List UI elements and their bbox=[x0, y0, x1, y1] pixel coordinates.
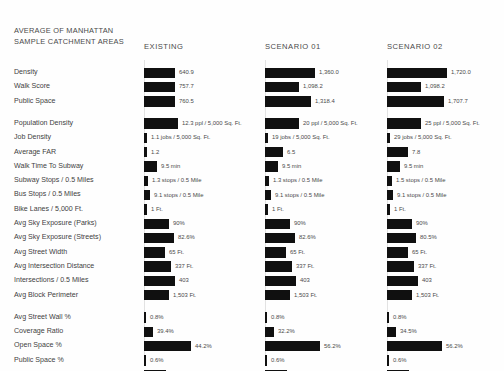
value-label: 403 bbox=[179, 277, 189, 284]
metric-label: Public Space bbox=[14, 97, 55, 106]
value-bar bbox=[265, 161, 278, 171]
metric-label: Walk Time To Subway bbox=[14, 162, 83, 171]
value-label: 0.6% bbox=[393, 357, 406, 364]
column-header-existing: EXISTING bbox=[144, 42, 183, 51]
page-title-line-1: AVERAGE OF MANHATTAN bbox=[14, 26, 144, 37]
metric-label: Walk Score bbox=[14, 82, 50, 91]
value-label: 90% bbox=[416, 220, 428, 227]
value-bar bbox=[144, 96, 175, 106]
value-label: 1 Ft. bbox=[394, 206, 406, 213]
value-bar bbox=[265, 290, 290, 300]
value-bar bbox=[387, 147, 408, 157]
value-bar bbox=[265, 219, 290, 229]
metric-row: Population Density12.3 ppl / 5,000 Sq. F… bbox=[0, 117, 504, 131]
value-bar bbox=[265, 190, 271, 200]
metric-row: Avg Street Width65 Ft.65 Ft.65 Ft. bbox=[0, 246, 504, 260]
value-label: 9.5 min bbox=[404, 163, 423, 170]
value-label: 82.6% bbox=[178, 234, 195, 241]
value-label: 0.6% bbox=[150, 357, 163, 364]
metric-row: Density640.91,360.01,720.0 bbox=[0, 66, 504, 80]
value-bar bbox=[144, 219, 169, 229]
value-label: 25 ppl / 5,000 Sq. Ft. bbox=[425, 120, 480, 127]
value-bar bbox=[387, 261, 414, 271]
metric-label: Avg Sky Exposure (Parks) bbox=[14, 219, 97, 228]
value-bar bbox=[144, 147, 147, 157]
value-label: 9.1 stops / 0.5 Mile bbox=[275, 192, 324, 199]
value-bar bbox=[387, 219, 412, 229]
value-label: 1,503 Ft. bbox=[173, 292, 196, 299]
value-bar bbox=[387, 68, 447, 78]
value-bar bbox=[387, 341, 442, 351]
page-title: AVERAGE OF MANHATTAN SAMPLE CATCHMENT AR… bbox=[14, 26, 144, 47]
value-label: 19 jobs / 5,000 Sq. Ft. bbox=[272, 134, 330, 141]
value-label: 65 Ft. bbox=[412, 249, 427, 256]
value-bar bbox=[387, 312, 389, 322]
value-bar bbox=[144, 161, 157, 171]
value-label: 80.5% bbox=[420, 234, 437, 241]
value-label: 1.5 stops / 0.5 Mile bbox=[396, 177, 445, 184]
value-bar bbox=[144, 312, 146, 322]
value-label: 337 Ft. bbox=[418, 263, 436, 270]
metric-label: Avg Street Width bbox=[14, 248, 67, 257]
value-bar bbox=[265, 204, 268, 214]
value-label: 12.3 ppl / 5,000 Sq. Ft. bbox=[182, 120, 242, 127]
value-label: 9.1 stops / 0.5 Mile bbox=[154, 192, 203, 199]
infographic-sheet: AVERAGE OF MANHATTAN SAMPLE CATCHMENT AR… bbox=[0, 0, 504, 371]
metric-label: Bus Stops / 0.5 Miles bbox=[14, 190, 81, 199]
metric-label: Avg Street Wall % bbox=[14, 313, 71, 322]
value-label: 29 jobs / 5,000 Sq. Ft. bbox=[394, 134, 452, 141]
metric-row: Average FAR1.26.57.8 bbox=[0, 146, 504, 160]
value-bar bbox=[387, 133, 390, 143]
metric-row: Avg Block Perimeter1,503 Ft.1,503 Ft.1,5… bbox=[0, 289, 504, 303]
value-label: 1,503 Ft. bbox=[416, 292, 439, 299]
metric-row: Subway Stops / 0.5 Miles1.3 stops / 0.5 … bbox=[0, 174, 504, 188]
value-bar bbox=[387, 290, 412, 300]
metric-label: Coverage Ratio bbox=[14, 327, 63, 336]
value-bar bbox=[144, 327, 153, 337]
value-bar bbox=[387, 176, 392, 186]
value-label: 39.4% bbox=[157, 328, 174, 335]
value-label: 1,720.0 bbox=[451, 69, 471, 76]
value-label: 9.5 min bbox=[161, 163, 180, 170]
value-label: 1,707.7 bbox=[448, 98, 468, 105]
value-label: 1,098.2 bbox=[303, 83, 323, 90]
value-bar bbox=[144, 355, 146, 365]
value-bar bbox=[265, 327, 274, 337]
value-label: 337 Ft. bbox=[175, 263, 193, 270]
value-bar bbox=[265, 147, 283, 157]
metric-label: Open Space % bbox=[14, 341, 62, 350]
metric-row: Open Space %44.2%56.2%56.2% bbox=[0, 339, 504, 353]
value-label: 403 bbox=[422, 277, 432, 284]
value-bar bbox=[265, 96, 311, 106]
page-title-line-2: SAMPLE CATCHMENT AREAS bbox=[14, 37, 144, 48]
metric-label: Job Density bbox=[14, 133, 51, 142]
metric-row: Avg Sky Exposure (Streets)82.6%82.6%80.5… bbox=[0, 231, 504, 245]
value-bar bbox=[265, 261, 292, 271]
value-bar bbox=[387, 96, 444, 106]
value-label: 1.2 bbox=[151, 149, 159, 156]
value-bar bbox=[387, 327, 396, 337]
metric-row: Coverage Ratio39.4%32.2%34.5% bbox=[0, 325, 504, 339]
value-label: 9.5 min bbox=[282, 163, 301, 170]
value-label: 9.1 stops / 0.5 Mile bbox=[397, 192, 446, 199]
value-label: 32.2% bbox=[278, 328, 295, 335]
value-label: 1,318.4 bbox=[315, 98, 335, 105]
value-label: 1 Ft. bbox=[151, 206, 163, 213]
value-label: 34.5% bbox=[400, 328, 417, 335]
value-label: 65 Ft. bbox=[290, 249, 305, 256]
metric-row: Bus Stops / 0.5 Miles9.1 stops / 0.5 Mil… bbox=[0, 188, 504, 202]
value-bar bbox=[387, 233, 416, 243]
value-bar bbox=[387, 161, 400, 171]
value-bar bbox=[387, 276, 418, 286]
value-bar bbox=[144, 82, 175, 92]
metric-row: Avg Street Wall %0.8%0.8%0.8% bbox=[0, 311, 504, 325]
value-bar bbox=[144, 204, 147, 214]
value-bar bbox=[144, 276, 175, 286]
value-bar bbox=[265, 176, 269, 186]
metric-label: Density bbox=[14, 68, 38, 77]
value-bar bbox=[265, 233, 295, 243]
value-label: 1.1 jobs / 5,000 Sq. Ft. bbox=[151, 134, 210, 141]
value-label: 760.5 bbox=[179, 98, 194, 105]
value-bar bbox=[265, 118, 299, 128]
value-bar bbox=[387, 118, 421, 128]
